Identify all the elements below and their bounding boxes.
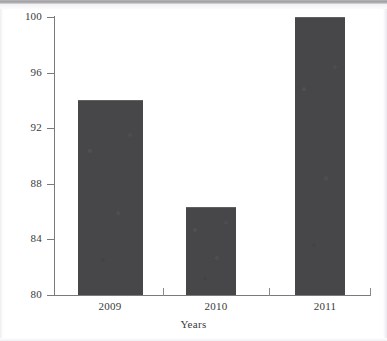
y-axis-tick-100: [47, 17, 55, 18]
y-axis-tick-label-88: 88: [2, 178, 42, 189]
y-axis-tick-84: [47, 239, 55, 240]
y-axis-tick-92: [47, 128, 55, 129]
y-axis-tick-label-84: 84: [2, 233, 42, 244]
x-axis-line: [54, 295, 371, 296]
plot-area: [55, 17, 371, 295]
bar-2009[interactable]: [78, 100, 143, 295]
bar-2011[interactable]: [295, 17, 345, 295]
y-axis-tick-label-96: 96: [2, 67, 42, 78]
y-axis-tick-88: [47, 184, 55, 185]
bar-top-highlight: [78, 100, 143, 101]
y-axis-tick-80: [47, 295, 55, 296]
x-axis-tick-label-2010: 2010: [176, 300, 256, 312]
x-axis-tick-label-2009: 2009: [70, 300, 150, 312]
bar-top-highlight: [295, 17, 345, 18]
bar-2010[interactable]: [186, 207, 236, 295]
bar-chart-figure: 100 96 92 88 84 80 2009 2010 2011 Pass r…: [0, 0, 387, 341]
bar-top-highlight: [186, 207, 236, 208]
y-axis-tick-label-100: 100: [2, 11, 42, 22]
x-axis-tick-label-2011: 2011: [285, 300, 365, 312]
x-axis-title: Years: [0, 318, 387, 330]
y-axis-tick-label-92: 92: [2, 122, 42, 133]
y-axis-tick-label-80: 80: [2, 289, 42, 300]
y-axis-tick-96: [47, 73, 55, 74]
